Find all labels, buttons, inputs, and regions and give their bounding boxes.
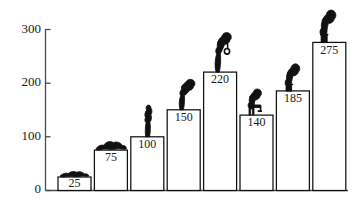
bar-value-label-0: 25 xyxy=(69,176,81,190)
bar-value-label-7: 275 xyxy=(320,43,338,57)
figure-person-reaching-up-4 xyxy=(215,33,231,73)
bar-group-6: 185 xyxy=(276,64,309,191)
y-tick-label-300: 300 xyxy=(22,21,42,36)
bar-value-label-3: 150 xyxy=(175,110,193,124)
figure-person-crouching-6 xyxy=(285,64,300,91)
figure-person-lying-down-1 xyxy=(96,142,127,150)
y-tick-label-0: 0 xyxy=(35,181,42,196)
figure-person-leaning-forward-7 xyxy=(320,10,336,42)
bar-rect-4 xyxy=(204,72,237,190)
bar-group-0: 25 xyxy=(58,171,91,190)
y-tick-label-100: 100 xyxy=(22,128,42,143)
bar-group-7: 275 xyxy=(313,10,346,190)
y-tick-label-200: 200 xyxy=(22,74,42,89)
bar-chart: 300 200 100 0 25 75 10 xyxy=(0,0,363,211)
bar-group-4: 220 xyxy=(204,33,237,191)
bar-value-label-6: 185 xyxy=(284,91,302,105)
bar-rect-6 xyxy=(276,91,309,191)
bar-group-3: 150 xyxy=(167,79,200,190)
figure-person-lying-down-0 xyxy=(60,171,89,177)
bar-group-2: 100 xyxy=(131,105,164,190)
bar-rect-7 xyxy=(313,42,346,190)
bar-group-1: 75 xyxy=(94,142,127,191)
figure-person-sitting-5 xyxy=(248,89,261,115)
bar-value-label-4: 220 xyxy=(211,72,229,86)
bar-value-label-1: 75 xyxy=(105,150,117,164)
figure-person-bending-forward-3 xyxy=(179,79,195,109)
bar-group-5: 140 xyxy=(240,89,273,191)
bar-value-label-2: 100 xyxy=(138,137,156,151)
y-axis xyxy=(46,29,51,191)
figure-person-standing-upright-2 xyxy=(145,105,152,137)
bar-value-label-5: 140 xyxy=(248,115,266,129)
